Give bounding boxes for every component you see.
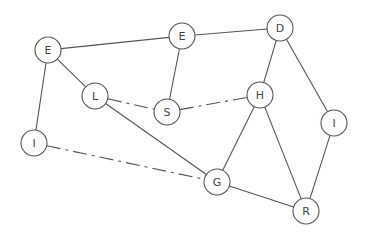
- node-label: H: [256, 89, 264, 102]
- node-label: R: [302, 205, 310, 218]
- edge-i1-g: [47, 146, 205, 180]
- node-label: L: [92, 90, 99, 103]
- node-d: D: [267, 15, 293, 41]
- edge-d-h: [264, 40, 277, 82]
- node-l: L: [82, 83, 108, 109]
- node-label: I: [32, 137, 35, 150]
- node-i1: I: [21, 130, 47, 156]
- node-label: G: [213, 176, 222, 189]
- node-label: E: [45, 44, 52, 57]
- edge-g-r: [229, 186, 293, 207]
- node-label: S: [164, 106, 171, 119]
- edge-s-h: [180, 97, 247, 109]
- node-label: D: [276, 22, 284, 35]
- node-e2: E: [169, 23, 195, 49]
- edge-e2-s: [170, 49, 180, 99]
- edge-e1-e2: [61, 37, 169, 48]
- edge-e1-l: [57, 59, 85, 87]
- edges-layer: [36, 29, 330, 207]
- node-g: G: [204, 169, 230, 195]
- node-e1: E: [35, 37, 61, 63]
- nodes-layer: EEDLSHIIGR: [21, 15, 347, 224]
- edge-e1-i1: [36, 63, 46, 130]
- edge-i2-r: [310, 135, 330, 198]
- edge-h-g: [223, 107, 254, 171]
- node-label: I: [332, 117, 335, 130]
- node-label: E: [179, 30, 186, 43]
- node-i2: I: [321, 110, 347, 136]
- edge-h-r: [265, 107, 301, 199]
- edge-l-s: [108, 99, 155, 109]
- edge-e2-d: [195, 29, 267, 35]
- edge-d-i2: [286, 39, 327, 111]
- node-s: S: [154, 99, 180, 125]
- node-r: R: [293, 198, 319, 224]
- node-h: H: [247, 82, 273, 108]
- graph-diagram: EEDLSHIIGR: [0, 0, 369, 241]
